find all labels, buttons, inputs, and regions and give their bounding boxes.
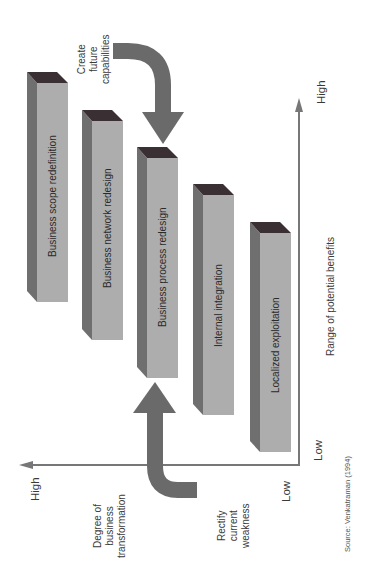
create-future-capabilities-label: Create future capabilities [76,35,112,84]
rectify-current-weakness-arrow-icon [133,382,197,490]
bar-label-localized-exploitation: Localized exploitation [270,297,281,393]
bar-label-business-scope-redefinition: Business scope redefinition [47,135,58,257]
y-axis [295,98,303,466]
source-citation: Source: Venkatraman (1994) [343,456,352,552]
x-axis-arrowhead-icon [19,461,33,469]
x-axis-high-label: High [29,477,41,501]
bar-label-business-process-redesign: Business process redesign [157,207,168,327]
y-axis-arrowhead-icon [295,98,303,112]
bar-label-internal-integration: Internal integration [213,264,224,347]
y-axis-title: Range of potential benefits [325,237,336,356]
bar-label-business-network-redesign: Business network redesign [102,168,113,288]
x-axis-low-label: Low [280,481,292,502]
y-axis-low-label: Low [312,440,324,461]
create-future-capabilities-arrow-icon [113,51,184,144]
rectify-current-weakness-label: Rectify current weakness [216,504,252,548]
x-axis-title: Degree of business transformation [92,494,128,558]
y-axis-high-label: High [315,80,327,104]
